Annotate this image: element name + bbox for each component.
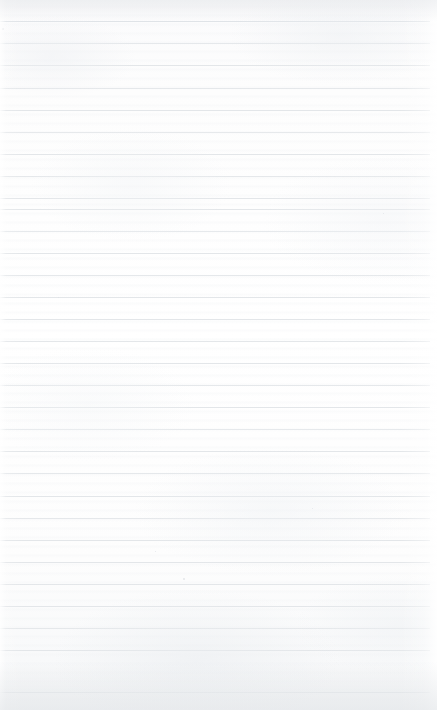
- writing-area[interactable]: [0, 21, 437, 693]
- lined-paper-page: [0, 0, 437, 710]
